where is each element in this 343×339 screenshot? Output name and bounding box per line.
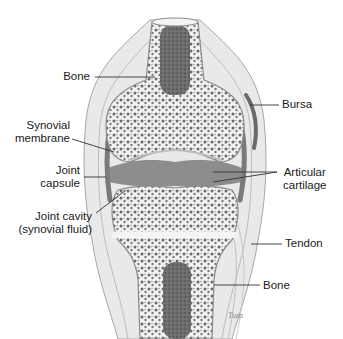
label-articular-cartilage: Articular cartilage xyxy=(283,166,326,192)
label-joint-capsule: Joint capsule xyxy=(0,164,80,190)
label-line1: Synovial xyxy=(0,119,70,132)
label-line2: cartilage xyxy=(283,179,326,192)
label-line2: capsule xyxy=(0,177,80,190)
label-bursa: Bursa xyxy=(282,98,312,111)
label-bone-bottom: Bone xyxy=(263,279,290,292)
label-joint-cavity: Joint cavity (synovial fluid) xyxy=(0,210,92,236)
upper-bone xyxy=(106,18,244,162)
label-line1: Articular xyxy=(283,166,326,179)
label-text: Tendon xyxy=(285,237,323,249)
label-text: Bursa xyxy=(282,98,312,110)
joint-diagram: Tuza Bone Synovial membrane Joint capsul… xyxy=(0,0,343,339)
label-line1: Joint xyxy=(0,164,80,177)
label-tendon: Tendon xyxy=(285,237,323,250)
joint-cavity-shape xyxy=(108,160,242,187)
label-bone-top: Bone xyxy=(50,70,90,83)
label-text: Bone xyxy=(263,279,290,291)
label-line2: (synovial fluid) xyxy=(0,223,92,236)
label-line1: Joint cavity xyxy=(0,210,92,223)
label-text: Bone xyxy=(63,70,90,82)
label-synovial-membrane: Synovial membrane xyxy=(0,119,70,145)
artist-signature: Tuza xyxy=(228,311,243,320)
label-line2: membrane xyxy=(0,132,70,145)
